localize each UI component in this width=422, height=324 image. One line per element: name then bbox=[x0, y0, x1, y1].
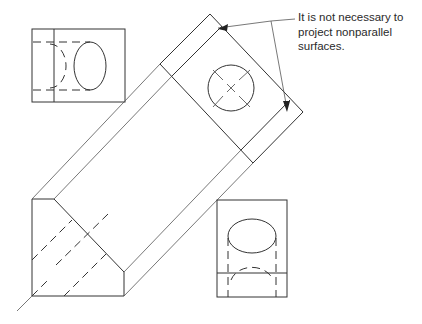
right-view bbox=[217, 200, 287, 297]
hidden-arc bbox=[231, 267, 273, 280]
hidden-diagonal bbox=[64, 254, 106, 296]
front-view bbox=[17, 199, 124, 311]
top-left-view-outline bbox=[32, 29, 125, 102]
annotation-line: It is not necessary to bbox=[298, 10, 403, 25]
leader-line-upper bbox=[218, 19, 295, 28]
projection-line bbox=[124, 150, 241, 272]
projection-line bbox=[32, 64, 160, 199]
hidden-diagonal bbox=[56, 214, 108, 265]
right-view-hole-ellipse bbox=[228, 219, 276, 253]
center-line bbox=[213, 70, 223, 80]
projection-line bbox=[17, 296, 32, 311]
hidden-arc bbox=[50, 44, 66, 88]
center-line bbox=[239, 70, 250, 80]
auxiliary-inner-edge bbox=[241, 100, 290, 150]
annotation-line: project nonparallel bbox=[298, 25, 403, 40]
leader-line-lower bbox=[271, 21, 287, 109]
auxiliary-inner-edge bbox=[172, 26, 222, 76]
annotation-line: surfaces. bbox=[298, 39, 403, 54]
projection-lines bbox=[32, 64, 253, 296]
annotation-callout: It is not necessary to project nonparall… bbox=[298, 10, 403, 54]
hidden-diagonal bbox=[32, 220, 72, 260]
top-left-view-hole-ellipse bbox=[74, 42, 106, 90]
hidden-diagonal bbox=[32, 278, 50, 296]
auxiliary-view bbox=[160, 14, 303, 163]
top-left-view bbox=[32, 29, 125, 102]
projection-line bbox=[54, 76, 172, 199]
center-line bbox=[239, 96, 250, 107]
center-line bbox=[213, 96, 223, 107]
